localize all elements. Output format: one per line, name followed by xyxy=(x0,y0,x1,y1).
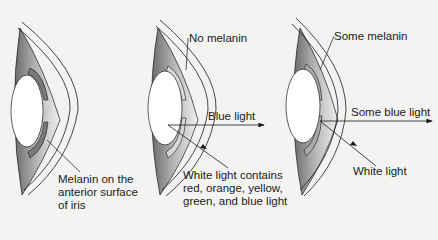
melanin-anterior-label-line-1: Melanin on the xyxy=(58,173,133,186)
eye-panel-1 xyxy=(11,22,80,195)
lens xyxy=(148,71,182,145)
melanin-anterior-label-line-2: anterior surface xyxy=(58,186,138,199)
lens xyxy=(286,69,320,143)
melanin-leader xyxy=(47,140,80,172)
white-light-arrowhead xyxy=(350,141,357,146)
no-melanin-leader xyxy=(186,38,188,70)
no-melanin-label: No melanin xyxy=(189,32,247,45)
some-melanin-leader xyxy=(320,36,334,70)
white-light-contains-label-line-1: White light contains xyxy=(183,169,283,182)
white-light-contains-label-line-3: green, and blue light xyxy=(183,195,287,208)
some-melanin-label: Some melanin xyxy=(334,30,408,43)
melanin-anterior-label-line-3: of iris xyxy=(58,199,85,212)
lens xyxy=(11,75,43,147)
some-blue-light-label: Some blue light xyxy=(351,106,430,119)
blue-light-label: Blue light xyxy=(208,110,255,123)
white-light-contains-label-line-2: red, orange, yellow, xyxy=(183,182,283,195)
white-light-label: White light xyxy=(353,165,407,178)
